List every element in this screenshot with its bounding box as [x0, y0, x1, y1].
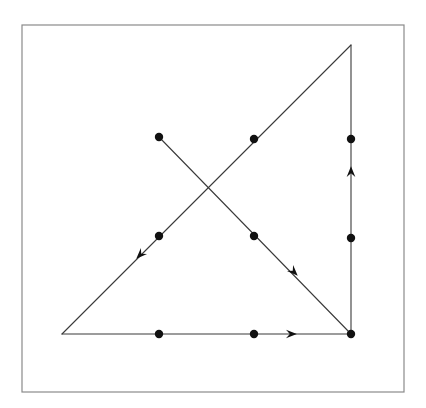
- dot-crossing-upper-end: [155, 133, 163, 141]
- dot-hypotenuse-upper: [250, 135, 258, 143]
- dot-crossing-lower: [250, 232, 258, 240]
- figure-background: [0, 0, 426, 408]
- geometry-figure: [0, 0, 426, 408]
- dot-bottom-left-mid: [155, 330, 163, 338]
- dot-bottom-right-vertex: [347, 330, 355, 338]
- figure-canvas: [0, 0, 426, 408]
- dot-bottom-right-mid: [250, 330, 258, 338]
- dot-right-edge-upper: [347, 135, 355, 143]
- dot-hypotenuse-lower: [155, 232, 163, 240]
- dot-right-edge-lower: [347, 234, 355, 242]
